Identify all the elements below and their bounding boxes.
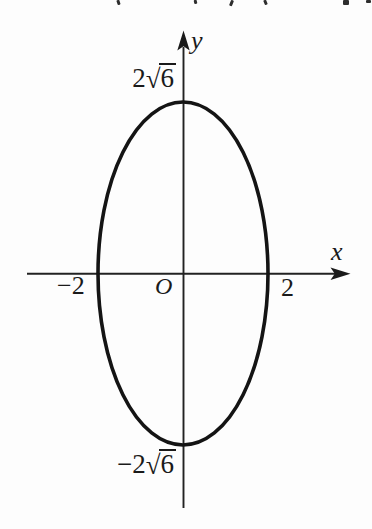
radical-sign: √ [146,450,161,480]
y-axis-label: y [191,28,203,54]
coefficient: −2 [117,449,146,479]
y-intercept-positive-label: 2√6 [132,63,176,92]
radicand: 6 [159,63,177,92]
coefficient: 2 [132,63,146,93]
origin-label: O [155,274,172,298]
x-intercept-positive-label: 2 [281,275,294,301]
y-intercept-negative-label: −2√6 [117,449,176,478]
figure-canvas: y x O −2 2 2√6 −2√6 [0,0,372,529]
x-intercept-negative-label: −2 [57,273,85,299]
ellipse-plot [0,0,372,529]
radical-sign: √ [146,64,161,94]
radicand: 6 [159,449,177,478]
x-axis-label: x [331,239,343,265]
